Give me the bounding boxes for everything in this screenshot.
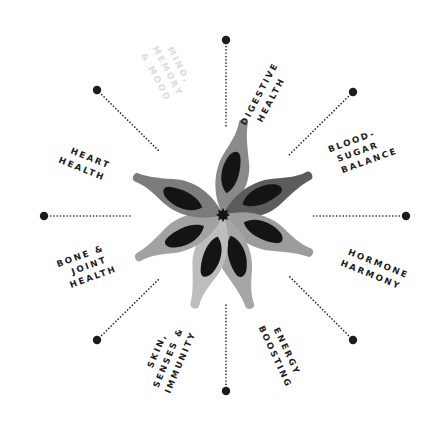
spoke-top-left-line (97, 90, 160, 152)
spoke-bottom-right-dot-icon (349, 336, 357, 344)
label-energy-boosting: ENERGY BOOSTING (257, 319, 306, 390)
label-skin-senses-immunity: SKIN, SENSES & IMMUNITY (139, 320, 198, 395)
spoke-bottom-left-dot-icon (93, 336, 101, 344)
spoke-bottom-left-line (97, 278, 160, 340)
center-star-icon (216, 208, 230, 222)
spoke-right-dot-icon (402, 212, 410, 220)
label-bone-joint-health: BONE & JOINT HEALTH (55, 241, 118, 292)
label-hormone-harmony: HORMONE HARMONY (339, 246, 410, 293)
spoke-top-right-dot-icon (349, 88, 357, 96)
spoke-bottom-dot-icon (222, 387, 230, 395)
spoke-top-left-dot-icon (93, 86, 101, 94)
wellness-diagram: DIGESTIVE HEALTH BLOOD- SUGAR BALANCE HO… (0, 0, 440, 429)
label-blood-sugar-balance: BLOOD- SUGAR BALANCE (327, 123, 399, 177)
spoke-top-dot-icon (222, 36, 230, 44)
spoke-bottom-right-line (289, 276, 353, 340)
label-heart-health: HEART HEALTH (57, 143, 112, 183)
label-mind-memory-mood: MIND, MEMORY & MOOD (139, 38, 197, 104)
spoke-left-dot-icon (40, 212, 48, 220)
label-digestive-health: DIGESTIVE HEALTH (239, 60, 292, 133)
diagram-canvas: DIGESTIVE HEALTH BLOOD- SUGAR BALANCE HO… (0, 0, 440, 429)
